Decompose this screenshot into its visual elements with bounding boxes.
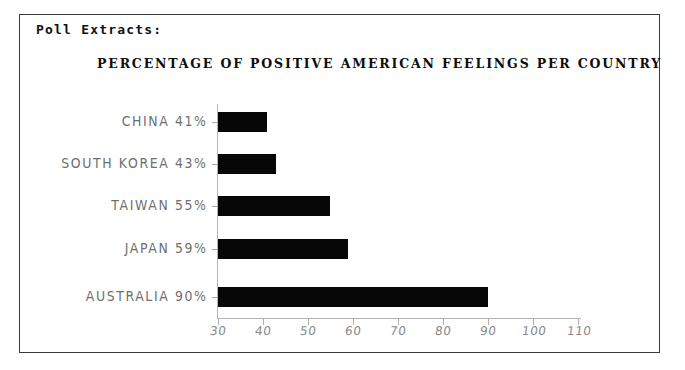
y-axis-tick bbox=[212, 122, 218, 123]
screenshot-root: Poll Extracts: PERCENTAGE OF POSITIVE AM… bbox=[0, 0, 685, 370]
category-label: JAPAN 59% bbox=[125, 241, 208, 257]
x-axis-tick-label: 30 bbox=[209, 324, 227, 338]
category-label: AUSTRALIA 90% bbox=[86, 289, 208, 305]
x-axis-tick-label: 100 bbox=[521, 324, 547, 338]
bar-chart: CHINA 41%SOUTH KOREA 43%TAIWAN 55%JAPAN … bbox=[0, 0, 685, 370]
x-axis-tick-label: 110 bbox=[566, 324, 592, 338]
category-label: SOUTH KOREA 43% bbox=[61, 156, 207, 172]
x-axis-tick-label: 50 bbox=[299, 324, 317, 338]
bar bbox=[218, 112, 268, 132]
category-label: CHINA 41% bbox=[122, 114, 208, 130]
y-axis-tick bbox=[212, 297, 218, 298]
bar bbox=[218, 287, 488, 307]
bar bbox=[218, 196, 331, 216]
x-axis-tick-label: 70 bbox=[389, 324, 407, 338]
category-label: TAIWAN 55% bbox=[111, 198, 207, 214]
bar bbox=[218, 154, 277, 174]
y-axis-tick bbox=[212, 206, 218, 207]
bar bbox=[218, 239, 349, 259]
x-axis-tick-label: 80 bbox=[434, 324, 452, 338]
x-axis-tick-label: 60 bbox=[344, 324, 362, 338]
x-axis-tick-label: 90 bbox=[479, 324, 497, 338]
x-axis-tick-label: 40 bbox=[254, 324, 272, 338]
x-axis-line bbox=[217, 318, 581, 319]
y-axis-tick bbox=[212, 164, 218, 165]
y-axis-tick bbox=[212, 249, 218, 250]
